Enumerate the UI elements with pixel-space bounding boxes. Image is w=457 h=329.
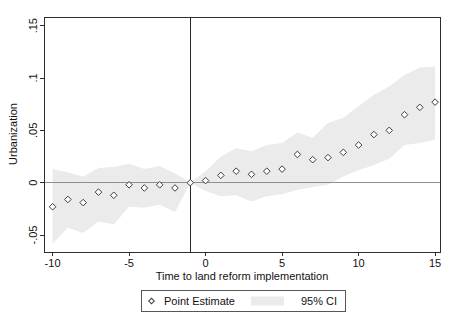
x-tick-label: -5 xyxy=(124,257,134,269)
y-tick-label: .1 xyxy=(27,73,39,82)
x-tick-label: 0 xyxy=(203,257,209,269)
event-study-figure: -.050.05.1.15-10-5051015 Urbanization Ti… xyxy=(0,0,457,329)
x-axis-title: Time to land reform implementation xyxy=(44,270,440,282)
legend: Point Estimate 95% CI xyxy=(141,290,346,312)
y-axis-title: Urbanization xyxy=(7,103,19,165)
y-tick-label: -.05 xyxy=(27,226,39,245)
y-tick-label: 0 xyxy=(27,180,39,186)
x-tick-label: 15 xyxy=(429,257,441,269)
legend-ci-label: 95% CI xyxy=(301,295,337,307)
legend-point-estimate-label: Point Estimate xyxy=(164,295,235,307)
ci-band xyxy=(53,67,436,244)
point-estimate-marker-icon xyxy=(148,297,155,304)
x-tick-label: -10 xyxy=(45,257,61,269)
y-tick-label: .15 xyxy=(27,18,39,33)
x-tick-label: 5 xyxy=(279,257,285,269)
x-tick-label: 10 xyxy=(352,257,364,269)
ci-band-swatch xyxy=(251,297,284,306)
y-tick-label: .05 xyxy=(27,123,39,138)
